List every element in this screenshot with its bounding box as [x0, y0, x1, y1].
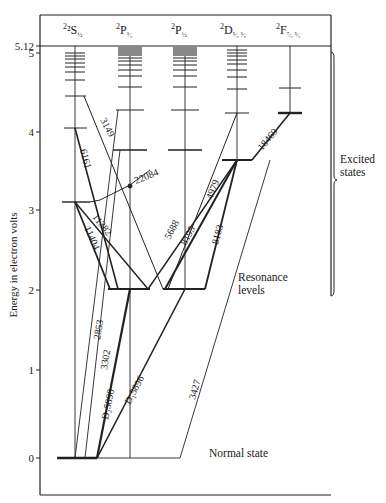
annotations: Excited states Resonance levels Normal s… [209, 153, 375, 459]
label-22084: 22084 [133, 166, 160, 186]
header-D: 2D⁵⁄₂ ³⁄₂ [220, 22, 247, 39]
tick-5: 5 [29, 47, 35, 59]
tick-1: 1 [29, 364, 35, 376]
energy-level-diagram: 5.12 5 4 3 2 1 0 Energy in electron volt… [0, 0, 386, 503]
column-headers: 2²S½ 2P³⁄₂ 2P½ 2D⁵⁄₂ ³⁄₂ 2F⁷⁄₂ ⁵⁄₂ [63, 22, 301, 39]
levels-P12 [163, 46, 205, 289]
tick-4: 4 [29, 126, 35, 138]
levels-P32 [108, 46, 150, 289]
label-D1-5896: D₁5896 [122, 374, 146, 406]
transition-labels: 3149 6161 22084 11382 11404 5688 4979 81… [78, 116, 280, 421]
annotation-excited: Excited [340, 153, 375, 165]
excited-states-bracket [331, 52, 337, 296]
annotation-levels: levels [238, 284, 265, 296]
label-8183: 8183 [209, 223, 225, 245]
header-F: 2F⁷⁄₂ ⁵⁄₂ [276, 22, 301, 39]
label-4979: 4979 [204, 178, 222, 201]
y-axis-label: Energy in electron volts [7, 212, 19, 317]
tick-0: 0 [29, 452, 35, 464]
header-P32: 2P³⁄₂ [116, 22, 133, 39]
annotation-states: states [340, 166, 366, 178]
tick-2: 2 [29, 284, 35, 296]
label-2853: 2853 [91, 319, 105, 341]
annotation-normal-state: Normal state [209, 447, 268, 459]
header-S: 2²S½ [63, 22, 83, 39]
label-6161: 6161 [78, 148, 94, 170]
tick-3: 3 [29, 204, 35, 216]
header-P12: 2P½ [171, 22, 187, 39]
label-D2-5890: D₂5890 [99, 388, 116, 420]
label-5688: 5688 [162, 218, 181, 241]
label-3302: 3302 [98, 349, 112, 371]
label-3427: 3427 [186, 378, 202, 400]
annotation-resonance: Resonance [238, 271, 288, 283]
